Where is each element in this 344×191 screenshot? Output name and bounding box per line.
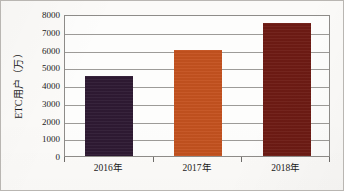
bar[interactable] [174,50,222,157]
y-axis-tick-label: 4000 [42,82,60,91]
x-axis-tick-labels: 2016年2017年2018年 [64,162,330,178]
y-axis-tick-label: 6000 [42,46,60,55]
y-axis-tick-label: 7000 [42,28,60,37]
bar-slot [65,16,154,156]
y-axis-tick-label: 0 [56,153,61,162]
x-axis-tick-label: 2016年 [94,162,123,174]
x-axis-tick-label: 2018年 [271,162,300,174]
y-axis-tick-label: 5000 [42,64,60,73]
x-axis-tick-label: 2017年 [183,162,212,174]
y-axis-tick-label: 2000 [42,117,60,126]
y-axis-tick-label: 8000 [42,11,60,20]
y-axis-tick-label: 1000 [42,135,60,144]
bar[interactable] [85,76,133,156]
bar[interactable] [263,23,311,156]
plot-area [64,15,330,157]
y-axis-tick-label: 3000 [42,99,60,108]
bar-slot [154,16,243,156]
y-axis-tick-labels: 010002000300040005000600070008000 [23,15,63,157]
bar-slot [242,16,331,156]
bar-chart-figure: ETC用户（万） 0100020003000400050006000700080… [0,0,344,191]
